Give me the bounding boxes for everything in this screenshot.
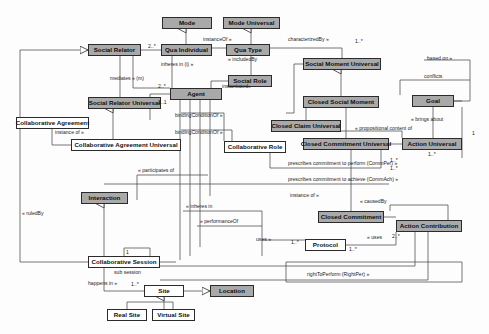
edge-label-characterizedby: characterizedBy » [288, 37, 329, 42]
edge-label-propositional-content: « propositional content of [355, 126, 412, 131]
multiplicity-m-ccu-right: 1..* [390, 158, 398, 163]
edge-label-ruledby: « ruledBy [22, 211, 44, 216]
class-node-closed-claim-universal[interactable]: Closed Claim Universal [271, 120, 341, 132]
multiplicity-m-agent-bot: 2..1 [158, 100, 167, 105]
class-node-virtual-site[interactable]: Virtual Site [152, 309, 195, 321]
edge-label-instance-of-1: instance of » [55, 130, 84, 135]
multiplicity-m-sess-top: 1 [126, 250, 129, 255]
edge-label-brings-about: « brings about [411, 117, 443, 122]
class-node-collaborative-agreement-universal[interactable]: Collaborative Agreement Universal [71, 139, 181, 151]
class-node-location[interactable]: Location [210, 285, 254, 297]
class-node-goal[interactable]: Goal [412, 95, 454, 107]
multiplicity-m-ac-left: 2..* [392, 234, 400, 239]
multiplicity-m-proto-left: 1..* [291, 240, 299, 245]
edge-label-inheres-in-i: inheres in (i) » [161, 62, 193, 67]
edge-label-righttoperform: rightToPerform (RightPer) » [307, 272, 369, 277]
class-node-action-universal[interactable]: Action Universal [402, 138, 462, 150]
class-node-agent[interactable]: Agent [170, 88, 222, 100]
multiplicity-m-au-right: 1 [472, 131, 475, 136]
class-node-social-moment-universal[interactable]: Social Moment Universal [303, 58, 381, 70]
edge-label-prescribes-commach: prescribes commitment to achieve (CommAc… [288, 177, 398, 182]
edge-label-bindingconditionof-1: bindingConditionOf » [175, 113, 223, 118]
diagram-canvas: ModeMode UniversalSocial RelatorQua Indi… [0, 0, 489, 334]
class-node-collaborative-role[interactable]: Collaborative Role [224, 141, 286, 153]
edge-label-instantiated: instantiated» [222, 84, 251, 89]
edge-label-instance-of-2: instance of » [290, 193, 319, 198]
edge-label-sub-session: sub session [114, 270, 141, 275]
edge-label-happens-in: happens in » [88, 281, 117, 286]
edge-label-uses-1: uses » [256, 237, 271, 242]
edge-label-uses-2: « uses [367, 235, 382, 240]
class-node-qua-individual[interactable]: Qua Individual [161, 44, 212, 56]
multiplicity-m-agent-top: 2..* [158, 84, 166, 89]
class-node-collaborative-agreement[interactable]: Collaborative Agreement [16, 117, 89, 129]
class-node-interaction[interactable]: Interaction [81, 192, 128, 204]
class-node-protocol[interactable]: Protocol [305, 239, 346, 251]
edge-label-bindingconditionof-2: bindingConditionOf » [175, 130, 223, 135]
edge-label-inheres-in-2: « inheres in [186, 204, 212, 209]
class-node-closed-commitment[interactable]: Closed Commitment [318, 211, 384, 223]
class-node-social-relator[interactable]: Social Relator [88, 44, 141, 56]
multiplicity-m-site-left: 1..* [131, 282, 139, 287]
class-node-closed-social-moment[interactable]: Closed Social Moment [303, 96, 379, 108]
multiplicity-m-smu-right: 1..* [355, 39, 363, 44]
class-node-action-contribution[interactable]: Action Contribution [396, 220, 462, 232]
edge-label-based-on: based on » [427, 56, 452, 61]
edge-label-instanceof-qua: instanceOf » [203, 37, 232, 42]
edge-label-includedby: « includedBy [228, 57, 257, 62]
multiplicity-m-proto-right: 1..* [349, 247, 357, 252]
class-node-site[interactable]: Site [144, 285, 184, 297]
class-node-mode-universal[interactable]: Mode Universal [223, 17, 280, 29]
edge-label-participates-of: « participates of [138, 168, 174, 173]
class-node-mode[interactable]: Mode [162, 17, 212, 29]
class-node-collaborative-session[interactable]: Collaborative Session [88, 256, 160, 268]
multiplicity-m-ccu-right2: 1..* [390, 166, 398, 171]
class-node-qua-type[interactable]: Qua Type [226, 44, 270, 56]
multiplicity-m-qua-left: 2..* [148, 44, 156, 49]
edge-label-mediates-m: mediates » (m) [110, 76, 144, 81]
class-node-real-site[interactable]: Real Site [107, 309, 147, 321]
edge-label-prescribes-commper: prescribes commitment to perform (CommPe… [288, 161, 397, 166]
class-node-social-relator-universal[interactable]: Social Relator Universal [88, 97, 161, 109]
edge-label-conflicts: conflicts [424, 74, 442, 79]
edge-label-performanceof: « performanceOf [200, 219, 238, 224]
multiplicity-m-au-left: 1..* [428, 152, 436, 157]
class-node-closed-commitment-universal[interactable]: Closed Commitment Universal [303, 138, 389, 150]
edge-label-causedby: « causedBy [360, 199, 387, 204]
